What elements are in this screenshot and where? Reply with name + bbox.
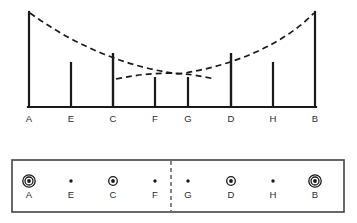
legend-item-G: G xyxy=(184,179,192,200)
legend-item-D: D xyxy=(227,177,236,200)
x-tick-label-E: E xyxy=(68,113,75,124)
legend-item-A: A xyxy=(23,175,35,200)
legend-item-B: B xyxy=(309,175,321,200)
figure-root: A E C F G D H B A xyxy=(0,0,357,223)
legend-label-A: A xyxy=(26,189,33,200)
x-tick-label-G: G xyxy=(184,113,192,124)
dot-small-icon xyxy=(271,179,274,182)
dot-small-icon xyxy=(153,179,156,182)
x-tick-label-C: C xyxy=(109,113,116,124)
legend-panel-border xyxy=(12,160,344,212)
x-tick-labels: A E C F G D H B xyxy=(26,113,319,124)
x-tick-label-A: A xyxy=(26,113,33,124)
legend-label-B: B xyxy=(312,189,319,200)
legend-label-G: G xyxy=(184,189,192,200)
legend-label-C: C xyxy=(109,189,116,200)
target-medium-icon-core xyxy=(229,179,233,183)
legend-label-D: D xyxy=(227,189,234,200)
dashed-curve-inner xyxy=(116,73,215,79)
x-tick-label-D: D xyxy=(227,113,234,124)
x-tick-label-B: B xyxy=(312,113,319,124)
x-tick-label-H: H xyxy=(269,113,276,124)
target-large-icon-core xyxy=(27,179,31,183)
legend-label-E: E xyxy=(68,189,75,200)
figure-svg: A E C F G D H B A xyxy=(0,0,357,223)
dashed-curve-outer xyxy=(30,13,314,74)
legend-item-C: C xyxy=(109,177,118,200)
dot-small-icon xyxy=(69,179,72,182)
dot-small-icon xyxy=(186,179,189,182)
legend-label-H: H xyxy=(269,189,276,200)
target-large-icon-core xyxy=(313,179,317,183)
legend-item-E: E xyxy=(68,179,75,200)
legend-label-F: F xyxy=(152,189,158,200)
legend-item-F: F xyxy=(152,179,158,200)
legend-panel: A E C F G xyxy=(12,160,344,212)
x-tick-label-F: F xyxy=(152,113,158,124)
target-medium-icon-core xyxy=(111,179,115,183)
legend-item-H: H xyxy=(269,179,276,200)
bar-chart: A E C F G D H B xyxy=(26,12,319,124)
